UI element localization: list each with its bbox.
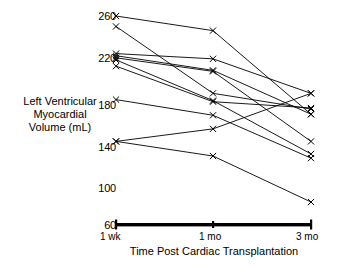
chart-container: 260 220 180 140 100 60 Left Ventricular … [0,0,343,265]
series-line [116,26,311,109]
data-point-8-3 [308,155,314,161]
data-point-10-3 [308,199,314,205]
data-point-9-3 [308,90,314,96]
plot-area [0,0,343,265]
series-2 [113,23,314,112]
series-line [116,141,311,202]
series-line [116,60,311,154]
data-point-2-1 [113,23,119,29]
series-10 [113,138,314,205]
series-4 [113,53,314,118]
x-tick-label-3mo: 3 mo [296,232,318,242]
x-axis-tick-3mo [310,220,312,230]
series-3 [113,51,314,97]
series-9 [113,90,314,144]
data-point-7-1 [113,63,119,69]
x-axis-title: Time Post Cardiac Transplantation [104,246,324,257]
x-tick-label-1mo: 1 mo [199,232,221,242]
series-group [113,13,314,205]
x-axis-tick-1mo [212,221,214,228]
series-line [116,56,311,115]
data-point-4-3 [308,111,314,117]
x-axis-tick-1wk [115,220,117,230]
data-point-5-3 [308,138,314,144]
x-tick-label-1wk: 1 wk [100,232,121,242]
